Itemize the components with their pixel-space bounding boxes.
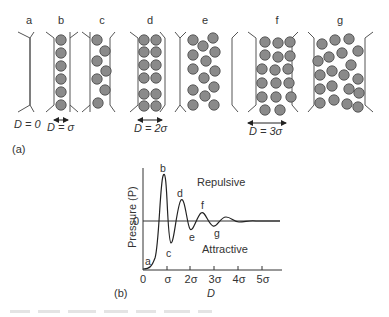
x-ticks <box>167 266 262 270</box>
point-label-g: g <box>214 227 220 239</box>
config-label-d: d <box>147 14 153 26</box>
point-label-a: a <box>145 255 151 267</box>
x-tick-2: 2σ <box>185 273 198 285</box>
config-label-f: f <box>275 14 279 26</box>
config-label-g: g <box>337 14 343 26</box>
wall-right-g <box>365 32 373 112</box>
point-label-e: e <box>189 231 195 243</box>
plate-ab <box>30 32 54 112</box>
config-label-c: c <box>99 14 105 26</box>
x-tick-4: 4σ <box>233 273 246 285</box>
plate-cd <box>110 32 138 112</box>
panel-a-label: (a) <box>12 143 25 155</box>
point-label-c: c <box>166 247 171 259</box>
x-tick-5: 5σ <box>257 273 270 285</box>
point-label-b: b <box>160 162 166 174</box>
config-labels: a b c d e f g <box>26 14 343 26</box>
plate-de <box>160 32 186 112</box>
figure-canvas: a b c d e f g D = 0 D = σ D = 2σ D = 3σ … <box>0 0 389 317</box>
sep-label-b: D = σ <box>47 121 74 133</box>
separation-labels: D = 0 D = σ D = 2σ D = 3σ <box>14 118 283 137</box>
x-axis-title: D <box>207 287 215 299</box>
sep-label-d: D = 2σ <box>134 122 168 134</box>
point-label-d: d <box>177 187 183 199</box>
particles <box>56 33 364 115</box>
wall-left-a <box>18 32 30 112</box>
y-axis-title: Pressure (P) <box>126 186 138 248</box>
config-label-b: b <box>58 14 64 26</box>
point-label-f: f <box>201 199 204 211</box>
region-attractive: Attractive <box>202 243 248 255</box>
region-repulsive: Repulsive <box>197 176 245 188</box>
panel-b-label: (b) <box>114 287 127 299</box>
separation-arrows <box>54 120 286 123</box>
config-label-e: e <box>202 14 208 26</box>
x-tick-3: 3σ <box>209 273 222 285</box>
y-axis-title-text: Pressure (P) <box>126 186 138 248</box>
x-tick-0: 0 <box>140 273 146 285</box>
config-label-a: a <box>26 14 33 26</box>
sep-label-f: D = 3σ <box>249 125 283 137</box>
faint-caption-fragment <box>10 310 212 313</box>
plate-bc <box>70 32 90 112</box>
x-tick-labels: 0 σ 2σ 3σ 4σ 5σ <box>140 273 270 285</box>
plate-ef <box>232 32 256 112</box>
x-tick-1: σ <box>165 273 172 285</box>
sep-label-a: D = 0 <box>14 118 41 130</box>
